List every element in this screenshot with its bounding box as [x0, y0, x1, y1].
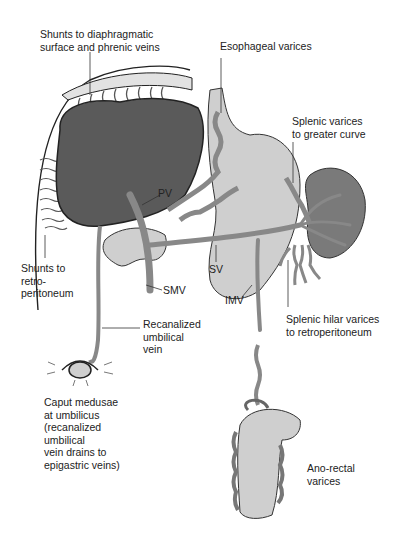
duodenum [103, 228, 166, 266]
label-caput-medusae: Caput medusae at umbilicus (recanalized … [44, 396, 120, 471]
label-line: Splenic hilar varices [286, 313, 379, 326]
label-line: Recanalized [143, 318, 201, 331]
label-line: retro- [21, 275, 74, 288]
label-line: vein drains to [44, 446, 120, 459]
label-line: varices [307, 475, 355, 488]
label-shunts-retroperitoneum: Shunts to retro- peritoneum [21, 262, 74, 300]
label-shunts-diaphragmatic: Shunts to diaphragmatic surface and phre… [40, 28, 160, 53]
label-line: to retroperitoneum [286, 326, 379, 339]
label-line: umbilical [44, 434, 120, 447]
label-line: epigastric veins) [44, 459, 120, 472]
label-line: to greater curve [292, 128, 366, 141]
label-sv: SV [209, 263, 223, 276]
label-line: Shunts to diaphragmatic [40, 28, 160, 41]
label-splenic-varices-greater-curve: Splenic varices to greater curve [292, 115, 366, 140]
label-line: peritoneum [21, 287, 74, 300]
label-line: Shunts to [21, 262, 74, 275]
label-line: at umbilicus [44, 409, 120, 422]
label-line: umbilical [143, 331, 201, 344]
caput-medusae [47, 361, 113, 386]
label-line: surface and phrenic veins [40, 41, 160, 54]
label-line: (recanalized [44, 421, 120, 434]
label-recanalized-umbilical-vein: Recanalized umbilical vein [143, 318, 201, 356]
recanalized-umbilical-vein [90, 226, 100, 362]
liver [56, 99, 203, 227]
label-line: Splenic varices [292, 115, 366, 128]
label-splenic-hilar-varices: Splenic hilar varices to retroperitoneum [286, 313, 379, 338]
label-anorectal-varices: Ano-rectal varices [307, 462, 355, 487]
label-line: Ano-rectal [307, 462, 355, 475]
spleen [305, 168, 365, 258]
label-line: vein [143, 343, 201, 356]
label-pv: PV [158, 187, 172, 200]
anorectal-region [234, 345, 301, 518]
label-line: Caput medusae [44, 396, 120, 409]
label-smv: SMV [163, 284, 186, 297]
label-esophageal-varices: Esophageal varices [220, 40, 312, 53]
label-imv: IMV [225, 294, 244, 307]
